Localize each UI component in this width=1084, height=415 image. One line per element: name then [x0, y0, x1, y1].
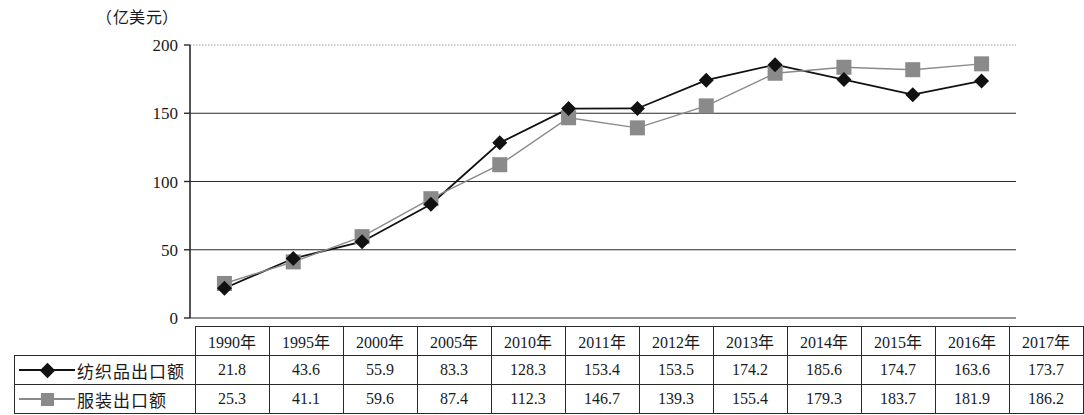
table-value-cell: 183.7: [861, 385, 935, 414]
data-point-marker-square: [974, 56, 989, 71]
table-value-cell: 21.8: [195, 356, 269, 385]
gridlines-group: [184, 45, 1016, 318]
series-line-2: [224, 64, 981, 284]
legend-entry: 服装出口额: [19, 386, 193, 412]
table-value-cell: 153.4: [565, 356, 639, 385]
table-value-cell: 83.3: [417, 356, 491, 385]
diamond-marker-icon: [19, 362, 75, 378]
table-value-cell: 186.2: [1009, 385, 1083, 414]
series-lines-group: [224, 64, 981, 288]
y-axis-tick-labels: 050100150200: [153, 36, 179, 328]
y-axis-tick-label: 150: [153, 104, 179, 123]
table-value-cell: 112.3: [491, 385, 565, 414]
table-year-header: 2012年: [639, 327, 713, 356]
table-value-cell: 87.4: [417, 385, 491, 414]
data-point-marker-diamond: [974, 73, 989, 88]
table-year-header: 2015年: [861, 327, 935, 356]
legend-marker: [41, 393, 54, 406]
y-axis-tick-label: 50: [161, 241, 178, 260]
data-point-marker-square: [630, 120, 645, 135]
table-corner-cell: [15, 327, 196, 356]
table-year-header: 2005年: [417, 327, 491, 356]
y-axis-tick-label: 100: [153, 173, 179, 192]
table-value-cell: 25.3: [195, 385, 269, 414]
series-line-1: [224, 65, 981, 289]
data-point-marker-square: [699, 98, 714, 113]
table-year-header: 2013年: [713, 327, 787, 356]
table-year-header: 2016年: [935, 327, 1009, 356]
table-year-header: 2000年: [343, 327, 417, 356]
table-year-header: 2017年: [1009, 327, 1083, 356]
series-legend-cell: 纺织品出口额: [15, 356, 196, 385]
table-value-cell: 128.3: [491, 356, 565, 385]
line-chart-plot: 050100150200: [0, 0, 1020, 330]
table-year-header: 2010年: [491, 327, 565, 356]
data-table: 1990年1995年2000年2005年2010年2011年2012年2013年…: [14, 326, 1084, 414]
legend-entry: 纺织品出口额: [19, 357, 193, 383]
table-header-row: 1990年1995年2000年2005年2010年2011年2012年2013年…: [15, 327, 1084, 356]
table-year-header: 2011年: [565, 327, 639, 356]
table-value-cell: 43.6: [269, 356, 343, 385]
table-value-cell: 185.6: [787, 356, 861, 385]
data-point-marker-square: [492, 157, 507, 172]
legend-marker: [39, 362, 55, 378]
table-value-cell: 179.3: [787, 385, 861, 414]
table-value-cell: 139.3: [639, 385, 713, 414]
table-value-cell: 163.6: [935, 356, 1009, 385]
series-markers-group: [217, 56, 989, 295]
data-point-marker-square: [905, 62, 920, 77]
data-point-marker-diamond: [905, 87, 920, 102]
table-year-header: 1995年: [269, 327, 343, 356]
table-row: 服装出口额25.341.159.687.4112.3146.7139.3155.…: [15, 385, 1084, 414]
table-year-header: 2014年: [787, 327, 861, 356]
data-point-marker-diamond: [699, 73, 714, 88]
series-legend-cell: 服装出口额: [15, 385, 196, 414]
table-value-cell: 173.7: [1009, 356, 1083, 385]
series-label: 服装出口额: [77, 387, 167, 412]
square-marker-icon: [19, 391, 75, 407]
table-value-cell: 155.4: [713, 385, 787, 414]
table-value-cell: 55.9: [343, 356, 417, 385]
table-value-cell: 181.9: [935, 385, 1009, 414]
y-axis-tick-label: 200: [153, 36, 179, 55]
table-value-cell: 146.7: [565, 385, 639, 414]
table-value-cell: 59.6: [343, 385, 417, 414]
table-value-cell: 174.2: [713, 356, 787, 385]
table-body: 纺织品出口额21.843.655.983.3128.3153.4153.5174…: [15, 356, 1084, 414]
table-year-header: 1990年: [195, 327, 269, 356]
table-value-cell: 174.7: [861, 356, 935, 385]
table-row: 纺织品出口额21.843.655.983.3128.3153.4153.5174…: [15, 356, 1084, 385]
table-value-cell: 153.5: [639, 356, 713, 385]
table-value-cell: 41.1: [269, 385, 343, 414]
series-label: 纺织品出口额: [77, 358, 185, 383]
